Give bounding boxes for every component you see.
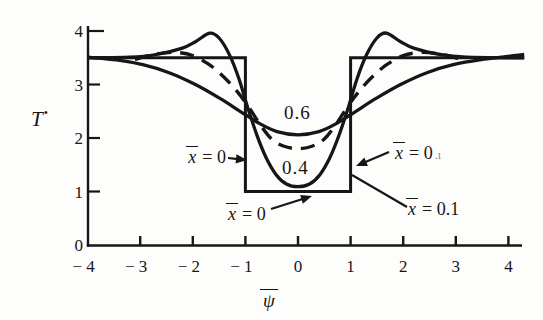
x-tick-label: − 1	[230, 258, 252, 275]
callout-bottom-xbar-0: x= 0	[226, 203, 266, 223]
x-tick-label: − 3	[125, 258, 147, 275]
xbar-symbol: x	[186, 146, 198, 166]
x-tick-label: 4	[504, 258, 513, 275]
x-axis-title-psi-bar: ψ	[260, 289, 278, 310]
bottom-x0-arrow	[271, 199, 303, 209]
callout-right-xbar-0: x= 0.ı	[393, 142, 441, 162]
y-axis-title-base: T	[31, 107, 43, 131]
x-tick-label: 0	[294, 258, 303, 275]
x-tick-label: − 4	[72, 258, 94, 275]
right-x0-arrow-head	[356, 157, 368, 166]
y-tick-label: 2	[75, 130, 84, 147]
callout-left-xbar-0: x= 0	[160, 146, 226, 166]
curve-label-0-4: 0.4	[282, 158, 309, 177]
figure-scanned-chart: T• ψ 0.6 0.4 x= 0 x= 0.ı x= 0 x= 0.1 012…	[0, 0, 543, 320]
callout-bottom-value: = 0	[242, 204, 266, 224]
callout-right-value: = 0	[409, 143, 433, 163]
y-axis-title-superscript-dot: •	[44, 106, 48, 120]
callout-xbar-0-1: x= 0.1	[406, 198, 459, 218]
y-tick-label: 0	[75, 237, 84, 254]
print-artifact: .ı	[435, 148, 441, 162]
x-tick-label: 3	[452, 258, 461, 275]
x-axis-title: ψ	[260, 289, 278, 310]
xbar-symbol: x	[406, 198, 418, 218]
right-x0-arrow	[364, 152, 389, 162]
x-tick-label: 1	[346, 258, 355, 275]
x01-callout-line	[352, 175, 407, 207]
curve-label-0-6: 0.6	[284, 103, 311, 122]
callout-left-value: = 0	[202, 147, 226, 167]
callout-x01-value: = 0.1	[422, 199, 459, 219]
y-axis-title: T•	[31, 107, 48, 130]
y-tick-label: 3	[75, 77, 84, 94]
bottom-x0-arrow-head	[300, 195, 312, 204]
y-tick-label: 4	[75, 23, 84, 40]
x-tick-label: 2	[399, 258, 408, 275]
xbar-symbol: x	[226, 203, 238, 223]
y-tick-label: 1	[75, 184, 84, 201]
xbar-symbol: x	[393, 142, 405, 162]
x-tick-label: − 2	[178, 258, 200, 275]
